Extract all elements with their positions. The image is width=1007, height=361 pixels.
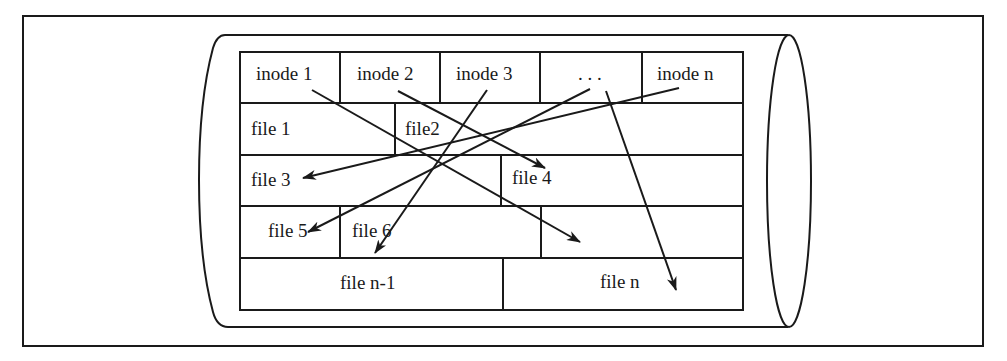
file-4-label: file 4 xyxy=(512,167,552,188)
arrow-ellipsis-filen xyxy=(606,91,676,290)
file-n-1-label: file n-1 xyxy=(340,272,395,293)
arrow-inode3 xyxy=(375,90,487,253)
inode-1-label: inode 1 xyxy=(256,63,312,84)
file-3-label: file 3 xyxy=(251,169,291,190)
file-1-label: file 1 xyxy=(251,118,291,139)
inode-2-label: inode 2 xyxy=(357,63,413,84)
pointer-arrows xyxy=(303,88,679,290)
inode-n-label: inode n xyxy=(657,63,714,84)
inode-3-label: inode 3 xyxy=(456,63,512,84)
file-5-label: file 5 xyxy=(268,220,308,241)
arrow-ellipsis-file5 xyxy=(308,89,590,232)
ellipsis-label: . . . xyxy=(578,63,602,84)
file-2-label: file2 xyxy=(405,118,440,139)
file-n-label: file n xyxy=(600,271,640,292)
arrow-inoden xyxy=(303,88,679,178)
inode-file-diagram: inode 1 inode 2 inode 3 . . . inode n fi… xyxy=(0,0,1007,361)
cylinder-end-ellipse xyxy=(767,35,811,327)
